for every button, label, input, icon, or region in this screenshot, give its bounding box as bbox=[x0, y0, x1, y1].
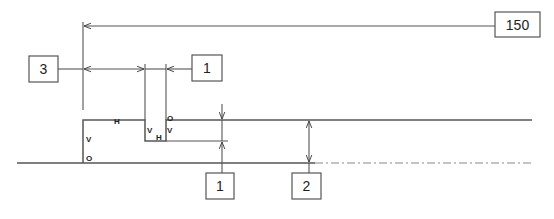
vertical-constraint-icon: V bbox=[147, 126, 153, 135]
coincident-constraint-icon: O bbox=[167, 114, 173, 123]
horizontal-constraint-icon: H bbox=[114, 117, 120, 126]
horizontal-constraint-icon: H bbox=[156, 133, 162, 142]
dimension-value-2: 2 bbox=[303, 178, 311, 194]
dimension-value-3: 3 bbox=[40, 61, 48, 77]
dimension-box-2[interactable]: 2 bbox=[292, 173, 321, 199]
dimension-box-3[interactable]: 3 bbox=[29, 56, 58, 82]
dimension-value-150: 150 bbox=[506, 17, 530, 33]
dimension-drawing: 150 3 1 1 2 H V O V H O V bbox=[0, 0, 554, 219]
fixed-origin-icon: O bbox=[86, 154, 92, 163]
constraint-tags: H V O V H O V bbox=[86, 114, 173, 163]
dimension-box-150[interactable]: 150 bbox=[495, 12, 540, 37]
dimension-box-1-bottom[interactable]: 1 bbox=[206, 173, 234, 199]
dimension-value-1-bottom: 1 bbox=[216, 178, 224, 194]
dimension-box-1-top[interactable]: 1 bbox=[192, 55, 222, 81]
vertical-constraint-icon: V bbox=[86, 135, 92, 144]
dimension-value-1-top: 1 bbox=[203, 60, 211, 76]
vertical-constraint-icon: V bbox=[167, 126, 173, 135]
